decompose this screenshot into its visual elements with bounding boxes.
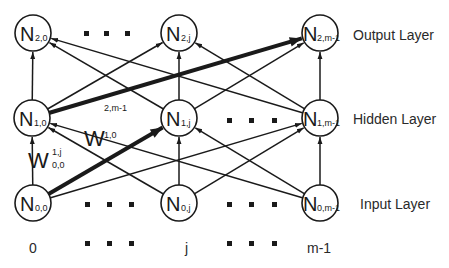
ellipsis-dot	[129, 241, 134, 246]
node-subscript: 1,j	[181, 118, 191, 128]
node-n-0-m-1: N 0,m-1	[302, 185, 340, 221]
neural-network-diagram: N 2,0 N 2,j N 2,m-1 N 1,0 N 1,j N 1,m-1 …	[0, 0, 449, 268]
weight-superscript: 1,j	[52, 147, 62, 157]
ellipsis-dot	[129, 202, 134, 207]
node-symbol: N	[303, 108, 317, 130]
node-n-0-0: N 0,0	[15, 185, 51, 221]
column-index-0: 0	[29, 240, 37, 256]
ellipsis-dot	[85, 202, 90, 207]
edge-n-0-j-to-n-1-m1	[191, 128, 304, 196]
ellipsis-dot	[107, 241, 112, 246]
node-symbol: N	[166, 108, 180, 130]
edge-n-1-j-to-n-2-0	[49, 43, 166, 111]
node-subscript: 2,m-1	[317, 33, 340, 43]
node-n-2-0: N 2,0	[15, 15, 51, 51]
node-subscript: 0,j	[181, 203, 191, 213]
node-symbol: N	[166, 23, 180, 45]
node-subscript: 2,j	[181, 33, 191, 43]
ellipsis-dot	[107, 202, 112, 207]
node-subscript: 1,0	[34, 118, 47, 128]
output-layer-label: Output Layer	[353, 27, 434, 43]
weight-symbol: W	[28, 148, 49, 173]
ellipsis-dot	[227, 241, 232, 246]
hidden-layer-label: Hidden Layer	[353, 111, 437, 127]
edge-n-1-0-to-n-2-j	[44, 43, 163, 112]
node-symbol: N	[20, 193, 34, 215]
node-n-1-j: N 1,j	[161, 100, 197, 136]
ellipsis-dot	[249, 202, 254, 207]
node-symbol: N	[19, 108, 33, 130]
weight-subscript: 0,0	[52, 160, 65, 170]
ellipsis-dot	[249, 118, 254, 123]
input-layer-label: Input Layer	[360, 196, 430, 212]
ellipsis-dot	[272, 241, 277, 246]
node-n-2-j: N 2,j	[161, 15, 197, 51]
weight-label-w-0-0-to-1-j: W 1,j 0,0	[28, 147, 65, 173]
node-subscript: 0,0	[35, 203, 48, 213]
node-symbol: N	[20, 23, 34, 45]
node-n-1-m-1: N 1,m-1	[302, 100, 340, 136]
column-index-m-1: m-1	[307, 240, 331, 256]
ellipsis-dot	[84, 31, 89, 36]
ellipsis-dot	[227, 202, 232, 207]
ellipsis-dot	[227, 118, 232, 123]
ellipsis-dot	[85, 241, 90, 246]
ellipsis-dot	[125, 31, 130, 36]
ellipsis-dot	[249, 241, 254, 246]
node-subscript: 0,m-1	[317, 203, 340, 213]
column-index-j: j	[184, 240, 188, 256]
node-n-1-0: N 1,0	[14, 100, 50, 136]
node-subscript: 1,m-1	[317, 118, 340, 128]
ellipsis-dot	[104, 31, 109, 36]
weight-subscript: 1,0	[104, 130, 117, 140]
weight-superscript: 2,m-1	[104, 103, 127, 113]
node-symbol: N	[303, 23, 317, 45]
node-symbol: N	[303, 193, 317, 215]
node-n-2-m-1: N 2,m-1	[302, 15, 340, 51]
edge-n-1-0-to-n-2-0	[32, 52, 33, 104]
ellipsis-dot	[272, 202, 277, 207]
weight-symbol: W	[84, 126, 105, 151]
node-subscript: 2,0	[35, 33, 48, 43]
node-symbol: N	[166, 193, 180, 215]
node-n-0-j: N 0,j	[161, 185, 197, 221]
ellipsis-dot	[272, 118, 277, 123]
